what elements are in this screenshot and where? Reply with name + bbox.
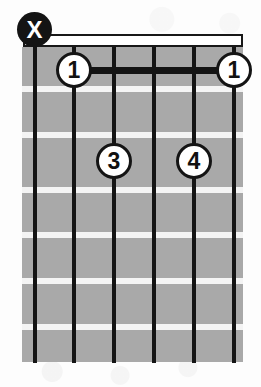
fret-line-5 (22, 278, 243, 284)
string-3 (112, 45, 116, 363)
string-4 (152, 45, 156, 363)
fret-line-4 (22, 232, 243, 238)
finger-dot-string-3-fret-2: 3 (96, 143, 132, 179)
fret-line-2 (22, 132, 243, 138)
mute-marker-string-1: X (17, 12, 52, 47)
finger-dot-label: 4 (188, 150, 201, 173)
fret-line-6 (22, 324, 243, 330)
nut-bar (23, 34, 243, 47)
finger-dot-label: 1 (68, 59, 81, 82)
fret-line-3 (22, 187, 243, 193)
string-1 (33, 45, 37, 363)
mute-marker-glyph: X (26, 18, 42, 42)
finger-dot-string-2-fret-1: 1 (56, 52, 92, 88)
string-5 (192, 45, 196, 363)
chord-diagram: X 1 1 3 4 (0, 0, 261, 387)
finger-dot-label: 3 (108, 150, 121, 173)
finger-dot-label: 1 (228, 59, 241, 82)
fret-line-1 (22, 86, 243, 92)
finger-dot-string-6-fret-1: 1 (216, 52, 252, 88)
string-2 (72, 45, 76, 363)
barre-bar (74, 67, 234, 74)
finger-dot-string-5-fret-2: 4 (176, 143, 212, 179)
string-6 (232, 45, 236, 363)
fretboard (22, 47, 243, 362)
